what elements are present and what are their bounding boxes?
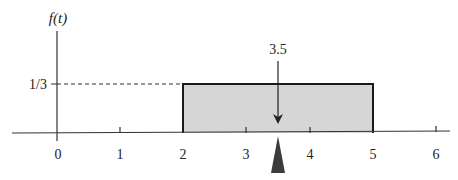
x-tick-label: 2 (180, 147, 187, 162)
mean-label: 3.5 (269, 42, 287, 57)
x-tick-label: 4 (307, 147, 314, 162)
x-tick-label: 0 (55, 147, 62, 162)
y-axis-label: f(t) (49, 10, 67, 27)
x-tick-label: 3 (243, 147, 250, 162)
y-tick-label: 1/3 (29, 77, 47, 92)
x-tick-label: 1 (117, 147, 124, 162)
x-tick-label: 6 (433, 147, 440, 162)
x-tick-label: 5 (370, 147, 377, 162)
uniform-distribution-figure: f(t) 1/3 0 1 2 3 4 5 6 3.5 (0, 0, 458, 180)
fulcrum-triangle-icon (271, 136, 285, 173)
x-tick-labels: 0 1 2 3 4 5 6 (55, 147, 440, 162)
